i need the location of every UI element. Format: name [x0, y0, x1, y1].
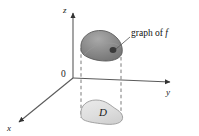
y-axis: y — [73, 78, 170, 97]
graph-of-f-annotation: graph of f — [131, 28, 169, 38]
y-axis-label: y — [165, 87, 170, 97]
surface-graph-of-f — [81, 30, 122, 61]
surface-shadow-spot — [110, 47, 117, 53]
z-axis-label: z — [62, 5, 67, 15]
origin-label: 0 — [61, 69, 66, 79]
x-axis-line — [19, 78, 73, 122]
z-axis: z — [62, 5, 73, 78]
region-d-label: D — [98, 106, 107, 118]
x-axis: x — [6, 78, 73, 133]
region-d: D — [81, 100, 123, 124]
math-figure-3d-graph-over-region: z y x 0 D — [0, 0, 199, 136]
graph-of-f-function: f — [165, 28, 169, 38]
graph-of-f-prefix: graph of — [131, 28, 165, 38]
surface-shape — [81, 30, 122, 61]
figure-canvas: z y x 0 D — [0, 0, 199, 136]
x-axis-label: x — [6, 123, 11, 133]
